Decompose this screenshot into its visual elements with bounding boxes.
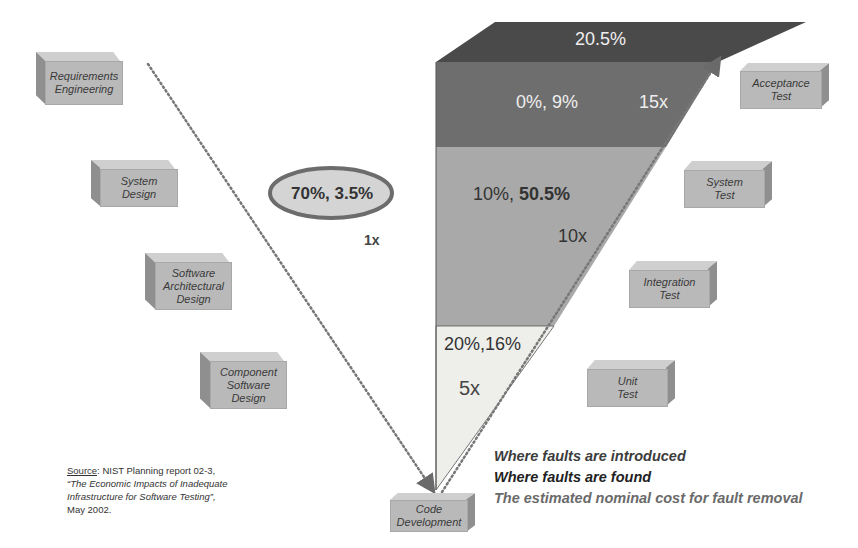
legend-found: Where faults are found — [494, 469, 651, 485]
band-system-introduced: 50.5% — [519, 184, 570, 204]
source-prefix: Source — [67, 465, 97, 476]
legend-cost: The estimated nominal cost for fault rem… — [494, 490, 803, 506]
ellipse-label: 70%, 3.5% — [291, 184, 373, 204]
band-acceptance-label: 0%, 9% — [516, 92, 578, 113]
legend-introduced: Where faults are introduced — [494, 448, 686, 464]
band-acceptance-cost: 15x — [639, 92, 668, 113]
ellipse-cost: 1x — [364, 232, 380, 248]
source-citation: Source: NIST Planning report 02-3, “The … — [67, 464, 228, 516]
band-system-found: 10%, — [473, 184, 519, 204]
band-unit-cost: 5x — [459, 377, 480, 400]
band-system-cost: 10x — [558, 226, 587, 247]
band-system-label: 10%, 50.5% — [473, 184, 570, 205]
band-top-label: 20.5% — [575, 29, 626, 50]
band-unit-label: 20%,16% — [444, 334, 521, 355]
